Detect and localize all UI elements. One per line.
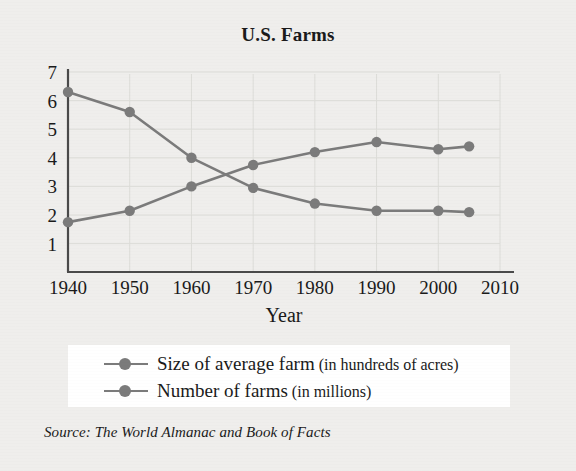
x-axis-label: Year xyxy=(266,304,303,326)
legend-label-units-1: (in millions) xyxy=(292,383,372,400)
x-tick-label-1970: 1970 xyxy=(234,277,272,298)
legend-label-main-0: Size of average farm xyxy=(157,353,315,374)
x-tick-label-1960: 1960 xyxy=(172,277,210,298)
legend-marker-icon-number-of-farms xyxy=(104,384,148,398)
legend-item-size-of-average-farm[interactable]: Size of average farm (in hundreds of acr… xyxy=(68,350,510,377)
legend-label-number-of-farms: Number of farms (in millions) xyxy=(157,380,371,402)
data-point-size-1980 xyxy=(310,147,320,157)
data-point-number-1940 xyxy=(63,87,73,97)
gridlines-group xyxy=(68,72,500,272)
x-tick-label-2010: 2010 xyxy=(481,277,519,298)
legend-item-number-of-farms[interactable]: Number of farms (in millions) xyxy=(68,377,510,404)
x-tick-label-1980: 1980 xyxy=(296,277,334,298)
legend-marker-icon-size-of-average-farm xyxy=(104,357,148,371)
y-tick-label-4: 4 xyxy=(48,148,58,169)
line-chart-plot: 1234567 19401950196019701980199020002010… xyxy=(0,0,576,340)
data-point-number-1950 xyxy=(125,107,135,117)
data-point-size-2005 xyxy=(464,141,474,151)
series-markers-group xyxy=(63,87,475,228)
chart-figure: U.S. Farms 1234567 194019501960197019801… xyxy=(0,0,576,471)
x-tick-label-1950: 1950 xyxy=(111,277,149,298)
data-point-size-1950 xyxy=(125,206,135,216)
data-point-size-1960 xyxy=(186,181,196,191)
data-point-number-1960 xyxy=(186,153,196,163)
source-prefix: Source: xyxy=(44,424,91,440)
y-tick-label-2: 2 xyxy=(48,205,58,226)
legend-label-size-of-average-farm: Size of average farm (in hundreds of acr… xyxy=(157,353,459,375)
x-tick-label-2000: 2000 xyxy=(419,277,457,298)
source-note: Source: The World Almanac and Book of Fa… xyxy=(44,424,331,441)
legend-label-units-0: (in hundreds of acres) xyxy=(319,356,459,373)
data-point-number-2000 xyxy=(433,206,443,216)
y-tick-label-1: 1 xyxy=(48,234,58,255)
y-tick-label-3: 3 xyxy=(48,176,58,197)
data-point-size-1940 xyxy=(63,217,73,227)
legend-label-main-1: Number of farms xyxy=(157,380,288,401)
chart-legend: Size of average farm (in hundreds of acr… xyxy=(68,345,510,407)
x-tick-label-1940: 1940 xyxy=(49,277,87,298)
data-point-size-1990 xyxy=(371,137,381,147)
y-tick-label-7: 7 xyxy=(48,62,58,83)
y-axis-tick-labels: 1234567 xyxy=(48,62,58,255)
data-point-number-2005 xyxy=(464,207,474,217)
source-text: The World Almanac and Book of Facts xyxy=(95,424,331,440)
y-tick-label-5: 5 xyxy=(48,119,58,140)
data-point-number-1980 xyxy=(310,198,320,208)
y-tick-label-6: 6 xyxy=(48,91,58,112)
x-axis-tick-labels: 19401950196019701980199020002010 xyxy=(49,277,519,298)
data-point-size-2000 xyxy=(433,144,443,154)
data-point-number-1970 xyxy=(248,183,258,193)
axes-group xyxy=(67,69,514,272)
data-point-size-1970 xyxy=(248,160,258,170)
data-point-number-1990 xyxy=(371,206,381,216)
x-tick-label-1990: 1990 xyxy=(358,277,396,298)
